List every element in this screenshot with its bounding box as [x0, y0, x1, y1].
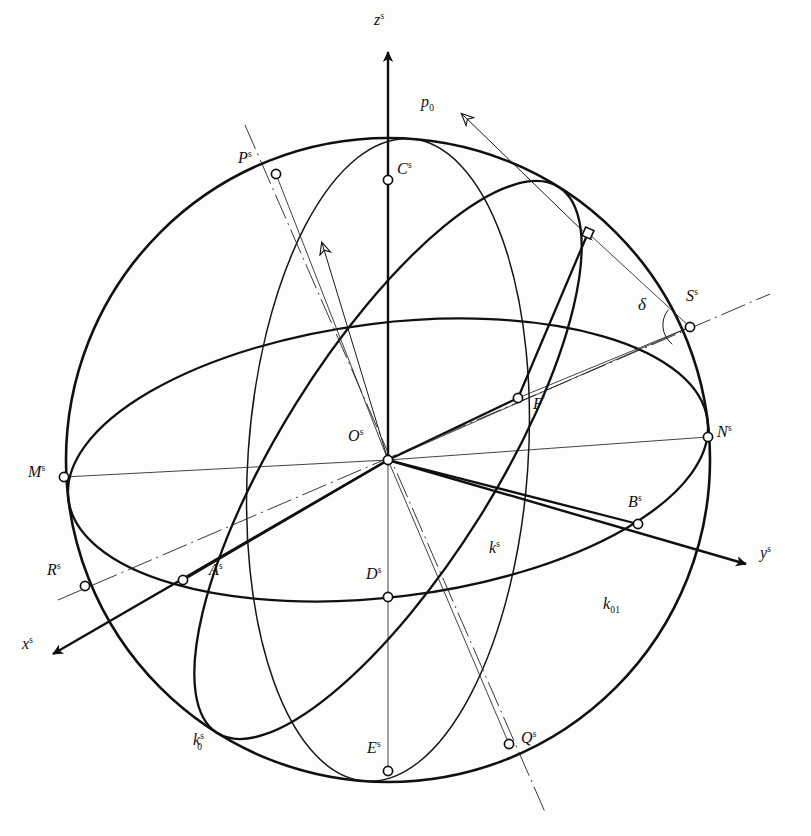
point-node-O [383, 455, 392, 464]
point-node-A [178, 575, 187, 584]
radius-to-N [388, 437, 708, 460]
point-node-S [685, 322, 694, 331]
point-node-D [383, 592, 392, 601]
point-label-M: Ms [28, 464, 45, 480]
point-node-R [80, 581, 89, 590]
point-label-C: Cs [397, 161, 412, 177]
point-label-O: Os [348, 428, 364, 444]
point-node-C [383, 175, 392, 184]
curve-label-k01: k01 [603, 596, 620, 616]
vector-p0 [462, 114, 592, 240]
figure-svg [0, 0, 811, 836]
radius-to-Q [388, 460, 509, 744]
point-node-E [383, 766, 392, 775]
point-label-E: Es [367, 740, 381, 756]
radius-to-B [388, 460, 638, 524]
point-label-F: F' [533, 396, 545, 412]
point-node-P [271, 169, 280, 178]
point-label-A: As [209, 562, 223, 578]
radius-to-M [64, 460, 388, 477]
angle-arc-delta-icon [663, 310, 672, 344]
point-label-S: Ss [686, 288, 698, 304]
point-node-Q [504, 739, 513, 748]
dashdot-axis-RS [58, 294, 770, 600]
axis-label-y: ys [760, 545, 771, 561]
curve-label-ks: ks [489, 540, 500, 556]
point-node-B [633, 519, 642, 528]
point-label-N: Ns [717, 424, 732, 440]
curve-label-k0s: ks0 [193, 732, 202, 752]
dashdot-polar-axis [245, 125, 545, 812]
sphere-diagram-canvas: zs ys xs p0 Ps Cs Ss Ns Ms F' Os Bs Rs A… [0, 0, 811, 836]
point-label-D: Ds [366, 566, 382, 582]
point-label-B: Bs [628, 494, 642, 510]
point-label-Q: Qs [521, 730, 537, 746]
point-node-F [513, 393, 522, 402]
axis-label-z: zs [374, 12, 384, 28]
angle-label-delta: δ [638, 296, 646, 313]
point-label-P: Ps [238, 150, 252, 166]
line-O-to-F [388, 398, 518, 460]
axis-label-x: xs [22, 636, 33, 652]
radius-to-P [276, 174, 388, 460]
vector-label-p0: p0 [421, 94, 434, 114]
point-label-R: Rs [47, 562, 61, 578]
axis-y [388, 460, 746, 564]
point-node-M [59, 472, 68, 481]
point-node-N [703, 432, 712, 441]
